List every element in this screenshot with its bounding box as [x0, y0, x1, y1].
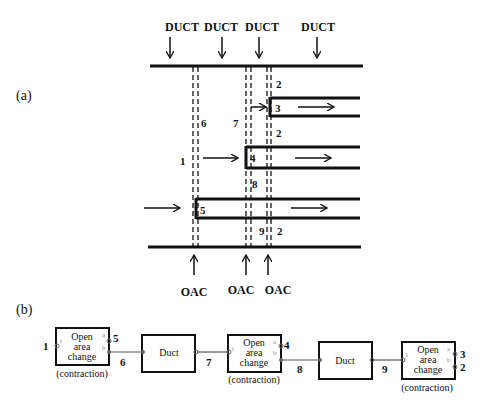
- block-duct-2: Duct: [318, 342, 374, 379]
- oac-label: OAC: [181, 285, 208, 299]
- svg-text:b: b: [273, 349, 277, 357]
- duct-label: DUCT: [245, 20, 279, 34]
- port-icon: [141, 350, 145, 354]
- block-caption: (contraction): [401, 382, 453, 394]
- block-caption: (contraction): [56, 368, 108, 380]
- block-caption: (contraction): [228, 374, 280, 386]
- svg-text:i: i: [232, 345, 234, 353]
- node-6: 6: [201, 117, 207, 129]
- node-9: 9: [382, 363, 388, 375]
- block-open-area-change-3: Open area change i a b (contraction): [401, 342, 457, 394]
- node-1: 1: [180, 155, 186, 167]
- duct-label: DUCT: [301, 20, 335, 34]
- node-2: 2: [276, 127, 282, 139]
- duct-label: DUCT: [165, 20, 199, 34]
- svg-text:Duct: Duct: [335, 355, 355, 366]
- node-3: 3: [275, 102, 281, 114]
- oac-label: OAC: [228, 283, 255, 297]
- node-4: 4: [250, 152, 256, 164]
- node-8: 8: [252, 178, 258, 190]
- inner-duct-4: [203, 146, 360, 169]
- inner-duct-5: [144, 198, 360, 219]
- node-4: 4: [284, 339, 290, 351]
- block-duct-1: Duct: [141, 335, 198, 372]
- node-9: 9: [259, 225, 265, 237]
- duct-label: DUCT: [204, 20, 238, 34]
- node-7: 7: [233, 117, 239, 129]
- svg-text:a: a: [102, 331, 106, 339]
- block-open-area-change-1: Open area change i a b (contraction): [55, 328, 111, 380]
- node-3: 3: [460, 348, 466, 360]
- node-5: 5: [113, 332, 119, 344]
- node-2: 2: [460, 361, 466, 373]
- oac-label: OAC: [265, 283, 292, 297]
- svg-text:change: change: [240, 357, 269, 368]
- node-7: 7: [206, 356, 212, 368]
- oac-markers: OAC OAC OAC: [181, 255, 292, 299]
- node-2: 2: [277, 225, 283, 237]
- node-5: 5: [200, 204, 206, 216]
- node-2: 2: [276, 78, 282, 90]
- panel-b: (b) Open area change i a b (contraction)…: [16, 302, 466, 394]
- panel-a: (a) DUCT DUCT DUCT DUCT: [16, 20, 363, 299]
- svg-text:a: a: [273, 338, 277, 346]
- port-icon: [318, 358, 322, 362]
- block-open-area-change-2: Open area change i a b (contraction): [227, 335, 283, 386]
- svg-text:change: change: [414, 364, 443, 375]
- svg-text:change: change: [68, 351, 97, 362]
- svg-text:a: a: [447, 345, 451, 353]
- duct-markers: DUCT DUCT DUCT DUCT: [165, 20, 335, 58]
- svg-text:i: i: [406, 351, 408, 359]
- panel-b-label: (b): [16, 302, 33, 318]
- node-6: 6: [120, 356, 126, 368]
- svg-text:b: b: [102, 344, 106, 352]
- node-1: 1: [43, 340, 49, 352]
- svg-text:b: b: [447, 356, 451, 364]
- svg-text:Duct: Duct: [159, 347, 179, 358]
- panel-a-label: (a): [16, 88, 32, 104]
- node-8: 8: [297, 363, 303, 375]
- svg-text:i: i: [60, 337, 62, 345]
